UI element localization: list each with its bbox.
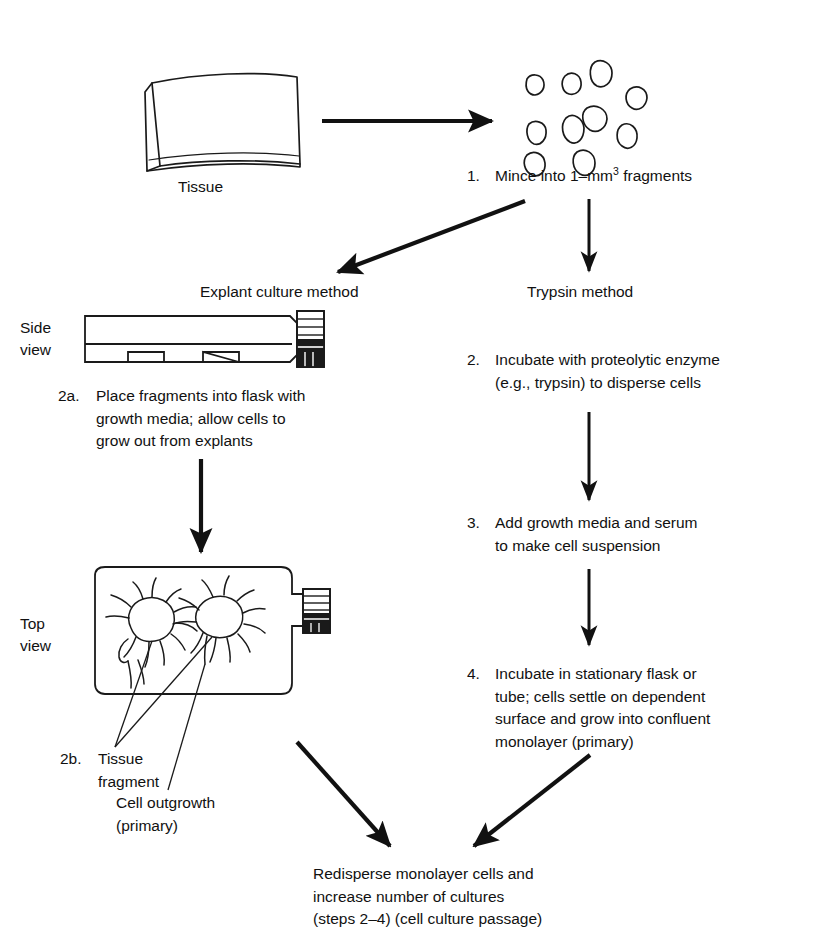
arrow-to-explant-method — [338, 201, 525, 272]
minced-fragments-illustration — [524, 61, 647, 176]
step1-text: Mince into 1–mm3 fragments — [495, 165, 692, 187]
side-view-label-line2: view — [20, 339, 51, 361]
diagram-page: Tissue 1. Mince into 1–mm3 fragments Exp… — [0, 0, 817, 949]
side-view-label-line1: Side — [20, 317, 51, 339]
arrow-explant-to-footer — [297, 742, 390, 846]
step2b-text: Tissue fragment — [98, 748, 159, 793]
arrow-trypsin-to-footer — [474, 755, 590, 846]
step4-text: Incubate in stationary flask or tube; ce… — [495, 663, 710, 753]
step2a-number: 2a. — [58, 385, 80, 407]
step2-number: 2. — [467, 349, 480, 371]
explant-colony-left — [106, 578, 197, 688]
step4-number: 4. — [467, 663, 480, 685]
tissue-block-illustration — [145, 74, 300, 171]
cell-outgrowth-label: Cell outgrowth (primary) — [116, 792, 215, 837]
step1-text-tail: fragments — [619, 167, 692, 184]
explant-colony-right — [173, 576, 265, 664]
step3-text: Add growth media and serum to make cell … — [495, 512, 697, 557]
top-view-label-line1: Top — [20, 613, 45, 635]
leader-cell-outgrowth — [168, 664, 205, 790]
step2a-text: Place fragments into flask with growth m… — [96, 385, 305, 453]
tissue-label: Tissue — [178, 176, 223, 198]
footer-caption: Redisperse monolayer cells and increase … — [313, 863, 542, 931]
top-view-label-line2: view — [20, 635, 51, 657]
step3-number: 3. — [467, 512, 480, 534]
step2-text: Incubate with proteolytic enzyme (e.g., … — [495, 349, 720, 394]
explant-method-label: Explant culture method — [200, 281, 359, 303]
step1-number: 1. — [467, 165, 480, 187]
step2b-number: 2b. — [60, 748, 82, 770]
side-view-flask-illustration — [85, 311, 324, 367]
step1-text-main: Mince into 1–mm — [495, 167, 613, 184]
trypsin-method-label: Trypsin method — [527, 281, 633, 303]
